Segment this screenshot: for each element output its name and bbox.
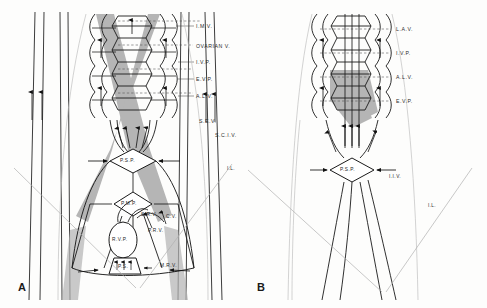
label-a-psp: P.S.P. xyxy=(120,158,135,163)
panel-b-plexus-left-column xyxy=(312,14,328,118)
label-a-alv: A.L.V. xyxy=(196,94,213,99)
panel-a-graphics xyxy=(14,12,232,300)
label-a-prv: P.R.V. xyxy=(148,228,164,233)
panel-a-left-outer-vessels xyxy=(29,12,70,300)
label-a-evp: E.V.P. xyxy=(196,77,213,82)
figure-canvas xyxy=(0,0,487,308)
label-a-pmp: P.M.P. xyxy=(121,201,137,206)
label-b-iiv: I.I.V. xyxy=(389,174,401,179)
label-b-psp: P.S.P. xyxy=(340,167,355,172)
panel-letter-b: B xyxy=(257,281,265,293)
label-a-cv: C.V. xyxy=(166,214,177,219)
label-a-srv: S.R.V. xyxy=(141,212,157,217)
label-a-il: I.L. xyxy=(227,167,235,172)
panel-letter-a: A xyxy=(18,281,26,293)
label-a-rvp: R.V.P. xyxy=(112,237,128,242)
label-a-ivp: I.V.P. xyxy=(196,60,211,65)
panel-b-ligament-lines xyxy=(248,168,472,292)
panel-b-lower-vessels xyxy=(322,180,396,300)
panel-a-right-outer-vessels xyxy=(178,12,222,300)
label-b-lav: L.A.V. xyxy=(396,27,413,32)
panel-b-faint-curves xyxy=(288,14,418,300)
label-a-ps: P.S. xyxy=(118,264,128,269)
label-a-ovarian-v: OVARIAN V. xyxy=(196,44,230,49)
label-a-imv: I.M.V. xyxy=(196,24,212,29)
label-b-il: I.L. xyxy=(428,204,436,209)
panel-b-plexus-right-column xyxy=(375,14,391,118)
label-a-sciv: S.C.I.V. xyxy=(215,133,237,138)
label-a-mrv: M.R.V. xyxy=(160,263,177,268)
panel-a-plexus-right-column xyxy=(160,14,177,118)
anatomical-figure: I.M.V. OVARIAN V. I.V.P. E.V.P. A.L.V. S… xyxy=(0,0,487,308)
panel-b-graphics xyxy=(248,14,472,300)
label-b-ivp: I.V.P. xyxy=(396,51,411,56)
label-a-sev: S.E.V. xyxy=(199,119,217,124)
label-b-alv: A.L.V. xyxy=(396,75,413,80)
label-b-evp: E.V.P. xyxy=(396,99,413,104)
panel-b-long-vessel-arrows xyxy=(345,126,359,146)
